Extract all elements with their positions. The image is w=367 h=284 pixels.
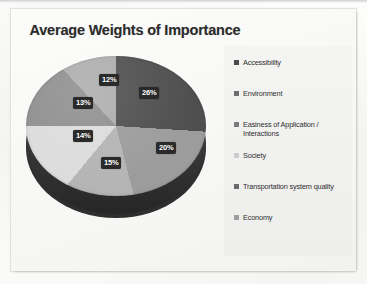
pie-chart: 26% 20% 15% 14% 13% 12% [22,48,218,233]
legend-swatch-icon [234,91,239,96]
pie-label-transportation: 13% [73,97,93,109]
pie-label-economy: 12% [99,74,119,86]
pie-label-society: 14% [73,130,93,142]
pie-label-environment: 20% [156,142,176,154]
legend-swatch-icon [234,153,239,158]
pie-label-easiness: 15% [101,157,121,169]
frame-shadow-right [356,12,359,270]
legend-item-transportation[interactable]: Transportation system quality [234,182,334,191]
legend-item-easiness[interactable]: Easiness of Application / Interactions [234,120,318,139]
legend-item-label: Accessibility [243,58,281,67]
scanned-page: Average Weights of Importance 26% 20% 15… [0,0,367,284]
legend-item-label: Society [243,151,266,160]
chart-title: Average Weights of Importance [0,22,270,38]
legend-item-label: Transportation system quality [243,182,334,191]
page-top-edge [0,0,367,3]
legend-item-label: Economy [243,213,272,222]
frame-shadow-bottom [14,271,355,274]
pie-label-accessibility: 26% [139,87,159,99]
legend-swatch-icon [234,184,239,189]
legend-swatch-icon [234,60,239,65]
legend-item-accessibility[interactable]: Accessibility [234,58,281,67]
legend-swatch-icon [234,122,239,127]
legend-item-economy[interactable]: Economy [234,213,272,222]
legend-item-label: Environment [243,89,282,98]
legend-item-environment[interactable]: Environment [234,89,282,98]
chart-legend: Accessibility Environment Easiness of Ap… [224,46,352,256]
legend-swatch-icon [234,215,239,220]
legend-item-society[interactable]: Society [234,151,266,160]
legend-item-label: Easiness of Application / Interactions [243,120,318,139]
